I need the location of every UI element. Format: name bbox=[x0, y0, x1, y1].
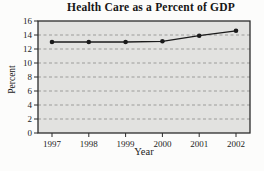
y-tick-label: 12 bbox=[23, 44, 32, 54]
y-tick-label: 4 bbox=[28, 100, 33, 110]
data-point-2000 bbox=[160, 39, 165, 44]
x-axis-label: Year bbox=[38, 146, 250, 157]
chart-figure: Health Care as a Percent of GDP Percent … bbox=[0, 0, 264, 171]
data-point-1997 bbox=[50, 40, 55, 45]
data-point-1999 bbox=[123, 40, 128, 45]
data-point-2002 bbox=[234, 29, 239, 34]
y-tick-label: 0 bbox=[28, 128, 33, 138]
y-tick-label: 14 bbox=[23, 30, 33, 40]
data-point-2001 bbox=[197, 33, 202, 38]
y-tick-label: 6 bbox=[28, 86, 33, 96]
y-tick-label: 16 bbox=[23, 16, 33, 26]
y-tick-label: 8 bbox=[28, 72, 33, 82]
chart-title: Health Care as a Percent of GDP bbox=[40, 1, 262, 13]
y-tick-label: 10 bbox=[23, 58, 33, 68]
data-point-1998 bbox=[87, 40, 92, 45]
y-tick-label: 2 bbox=[28, 114, 33, 124]
plot-area: 0246810121416199719981999200020012002 bbox=[0, 16, 264, 148]
